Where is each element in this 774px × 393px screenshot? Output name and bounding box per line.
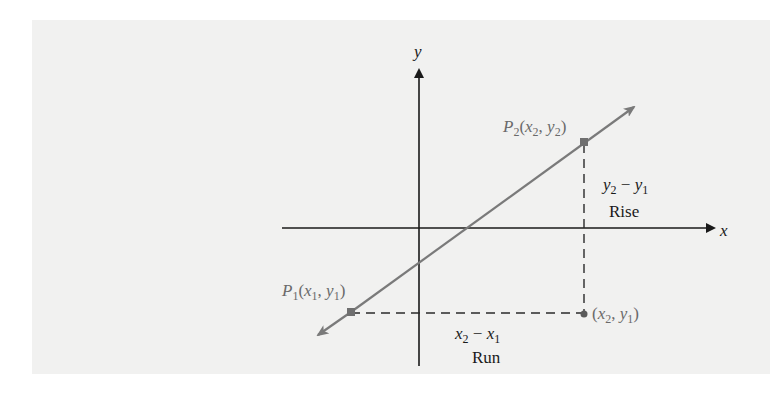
rise-expression: y2 − y1 (601, 175, 648, 197)
run-expression: x2 − x1 (454, 324, 500, 346)
rise-label: Rise (609, 202, 639, 221)
diagram-panel (32, 20, 770, 374)
run-label: Run (472, 348, 501, 367)
x-axis-label: x (719, 221, 728, 240)
point-p1 (347, 308, 355, 316)
point-p2 (580, 138, 588, 146)
y-axis-label: y (412, 42, 422, 61)
point-corner (581, 311, 588, 318)
slope-diagram: y x P2(x2, y2) P1(x1, y1) (x2, y1) y2 − … (0, 0, 774, 393)
